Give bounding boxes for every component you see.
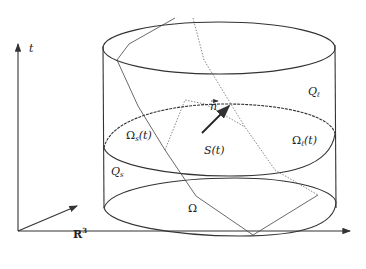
solid-slice-label: Ωs(t) [126,129,152,143]
bottom-ellipse-back [104,178,336,208]
base-domain-label: Ω [188,202,197,215]
interface-front-line [117,18,318,235]
liquid-domain-label: Qℓ [308,85,320,99]
interface-label: S(t) [204,144,225,157]
cylinder-left-side [103,46,104,208]
solid-domain-label: Qs [111,165,124,179]
time-axis-label: t [29,42,34,55]
liquid-slice-label: Ωℓ(t) [292,134,317,148]
top-ellipse [103,22,335,74]
r3-arrow [18,206,77,231]
normal-vector-label: n [210,100,217,113]
phase-change-diagram: t R3 Qℓ Ωs(t) Ωℓ(t) S(t) Qs Ω n [0,0,366,269]
cylinder-right-side [335,45,336,208]
r3-label: R3 [73,226,87,241]
